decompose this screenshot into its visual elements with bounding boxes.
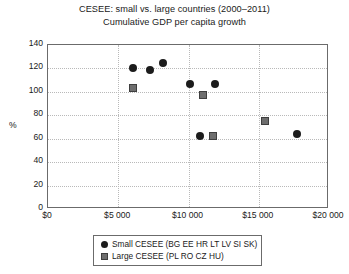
data-point-large-cesee [261, 117, 269, 125]
gridline-horizontal [48, 68, 327, 69]
legend-item-label: Large CESEE (PL RO CZ HU) [112, 251, 224, 262]
x-tick-label: $15 000 [242, 210, 273, 220]
gridline-vertical [189, 45, 190, 207]
x-tick-label: $20 000 [312, 210, 343, 220]
y-tick-label: 60 [3, 133, 43, 142]
chart-legend: Small CESEE (BG EE HR LT LV SI SK) Large… [93, 235, 262, 266]
y-tick-label: 40 [3, 156, 43, 165]
legend-item-large-cesee[interactable]: Large CESEE (PL RO CZ HU) [98, 250, 257, 262]
x-tick-label: $5 000 [104, 210, 130, 220]
y-tick-label: 100 [3, 86, 43, 95]
gridline-horizontal [48, 92, 327, 93]
data-point-small-cesee [196, 132, 204, 140]
data-point-small-cesee [129, 64, 137, 72]
circle-marker-icon [98, 241, 110, 248]
gridline-horizontal [48, 139, 327, 140]
gridline-horizontal [48, 115, 327, 116]
legend-item-label: Small CESEE (BG EE HR LT LV SI SK) [112, 239, 257, 250]
y-tick-label: 20 [3, 180, 43, 189]
gridline-vertical [259, 45, 260, 207]
data-point-large-cesee [199, 91, 207, 99]
legend-item-small-cesee[interactable]: Small CESEE (BG EE HR LT LV SI SK) [98, 238, 257, 250]
data-point-large-cesee [209, 132, 217, 140]
scatter-chart: CESEE: small vs. large countries (2000–2… [0, 0, 349, 274]
data-point-small-cesee [159, 59, 167, 67]
gridline-vertical [118, 45, 119, 207]
y-tick-label: 120 [3, 62, 43, 71]
y-tick-label: 80 [3, 109, 43, 118]
x-tick-label: $10 000 [172, 210, 203, 220]
data-point-large-cesee [129, 84, 137, 92]
data-point-small-cesee [146, 66, 154, 74]
gridline-horizontal [48, 162, 327, 163]
square-marker-icon [98, 253, 110, 260]
x-tick-label: $0 [42, 210, 52, 220]
chart-title-block: CESEE: small vs. large countries (2000–2… [0, 3, 349, 29]
data-point-small-cesee [293, 130, 301, 138]
x-axis-ticks: $0$5 000$10 000$15 000$20 000 [0, 210, 349, 224]
chart-subtitle: Cumulative GDP per capita growth [0, 16, 349, 29]
y-tick-label: 140 [3, 39, 43, 48]
gridline-horizontal [48, 186, 327, 187]
data-point-small-cesee [211, 80, 219, 88]
chart-title: CESEE: small vs. large countries (2000–2… [0, 3, 349, 16]
data-point-small-cesee [186, 80, 194, 88]
y-axis-ticks: 020406080100120140 [0, 44, 43, 208]
plot-area [47, 44, 328, 208]
